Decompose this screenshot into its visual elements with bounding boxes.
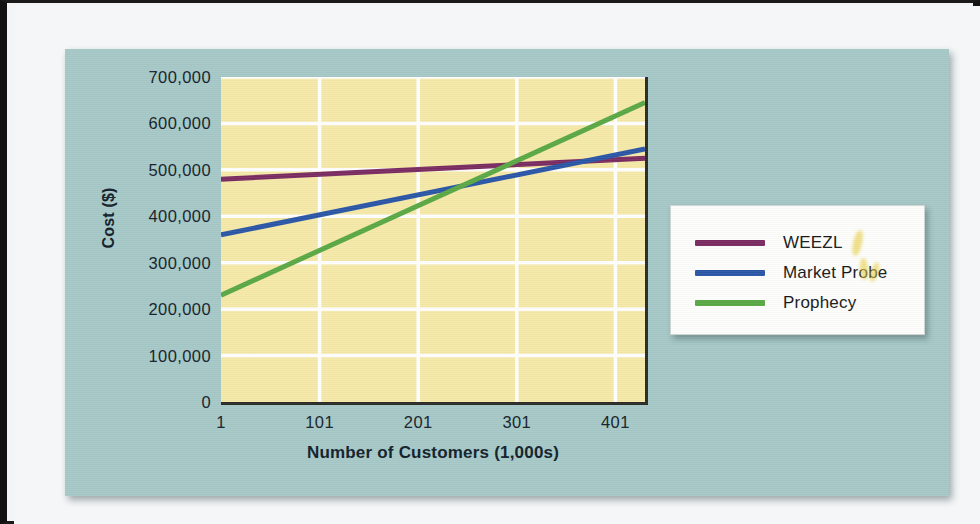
chart-canvas (221, 77, 645, 402)
x-tick-label: 201 (404, 413, 433, 432)
legend-color-swatch (695, 300, 765, 306)
series-line-prophecy (221, 103, 645, 296)
legend-item: Prophecy (671, 288, 924, 318)
legend-item-label: Market Probe (783, 263, 887, 283)
series-lines (221, 103, 645, 296)
paper-background: Cost ($) 0100,000200,000300,000400,00050… (14, 6, 980, 524)
legend-item-label: Prophecy (783, 293, 856, 313)
scanned-page: Cost ($) 0100,000200,000300,000400,00050… (0, 0, 980, 524)
series-line-market-probe (221, 149, 645, 235)
legend-color-swatch (695, 240, 765, 246)
gridlines (221, 77, 645, 402)
y-tick-label: 400,000 (91, 207, 211, 226)
x-axis-tick-labels: 1101201301401 (221, 413, 645, 435)
legend-color-swatch (695, 270, 765, 276)
x-tick-label: 1 (216, 413, 226, 432)
x-tick-label: 401 (601, 413, 630, 432)
plot-area (221, 77, 648, 405)
y-axis-tick-labels: 0100,000200,000300,000400,000500,000600,… (87, 77, 211, 402)
y-tick-label: 100,000 (91, 346, 211, 365)
x-tick-label: 101 (305, 413, 334, 432)
y-tick-label: 500,000 (91, 160, 211, 179)
y-tick-label: 600,000 (91, 114, 211, 133)
chart-legend: WEEZLMarket ProbeProphecy (670, 205, 925, 335)
y-tick-label: 700,000 (91, 68, 211, 87)
x-axis-title: Number of Customers (1,000s) (221, 443, 645, 463)
y-tick-label: 200,000 (91, 300, 211, 319)
y-tick-label: 0 (91, 393, 211, 412)
x-tick-label: 301 (502, 413, 531, 432)
legend-item-label: WEEZL (783, 233, 843, 253)
legend-item: WEEZL (671, 228, 924, 258)
legend-items: WEEZLMarket ProbeProphecy (671, 228, 924, 318)
y-tick-label: 300,000 (91, 253, 211, 272)
figure-panel: Cost ($) 0100,000200,000300,000400,00050… (65, 49, 949, 496)
legend-item: Market Probe (671, 258, 924, 288)
